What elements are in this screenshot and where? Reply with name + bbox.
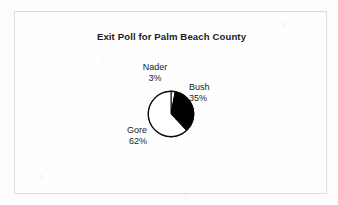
pie-chart [147,90,195,138]
pie-label-gore-value: 62% [89,136,147,147]
pie-label-bush: Bush 35% [189,82,243,103]
pie-label-bush-value: 35% [189,93,243,104]
pie-label-nader: Nader 3% [125,62,185,83]
pie-label-nader-name: Nader [143,62,168,72]
chart-title: Exit Poll for Palm Beach County [15,31,328,42]
pie-label-gore: Gore 62% [89,125,147,146]
pie-label-bush-name: Bush [189,82,210,92]
pie-chart-svg [147,90,195,138]
figure-frame: Exit Poll for Palm Beach County Nader 3%… [14,11,327,194]
pie-label-gore-name: Gore [127,125,147,135]
pie-label-nader-value: 3% [125,73,185,84]
